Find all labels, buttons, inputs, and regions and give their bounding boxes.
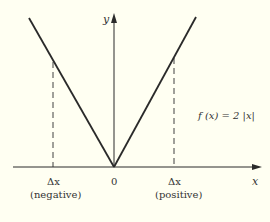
abs-value-graph: y x 0 f (x) = 2 |x| Δx (negative) Δx (po… xyxy=(0,0,270,222)
tick-positive-symbol: Δx xyxy=(168,176,181,187)
x-axis-label: x xyxy=(252,175,259,188)
tick-negative-note: (negative) xyxy=(30,189,81,200)
graph-canvas: y x 0 f (x) = 2 |x| Δx (negative) Δx (po… xyxy=(0,0,270,222)
function-label: f (x) = 2 |x| xyxy=(197,110,255,122)
x-axis-arrow-icon xyxy=(252,164,262,170)
left-branch xyxy=(29,18,114,167)
y-axis-arrow-icon xyxy=(111,13,117,23)
tick-negative-symbol: Δx xyxy=(47,176,60,187)
origin-label: 0 xyxy=(111,176,117,187)
y-axis-label: y xyxy=(102,13,110,26)
tick-positive-note: (positive) xyxy=(155,189,202,200)
right-branch xyxy=(114,17,196,167)
